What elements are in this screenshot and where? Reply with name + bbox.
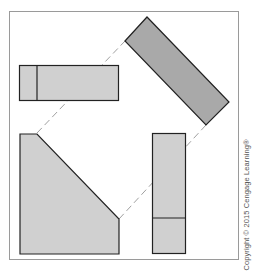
side-view <box>153 134 186 254</box>
copyright-notice: Copyright © 2015 Cengage Learning® <box>242 139 251 270</box>
top-view <box>20 66 119 101</box>
